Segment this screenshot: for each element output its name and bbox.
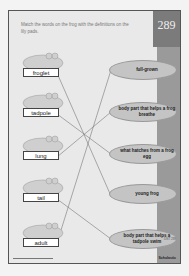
lily-pad-frog-breathe[interactable]: body part that helps a frog breathe (109, 102, 177, 122)
definition-text: what hatches from a frog egg (110, 148, 176, 160)
footer-brand: Scholastic (158, 256, 176, 260)
frog-tail: tail (19, 176, 67, 204)
word-label[interactable]: tail (23, 193, 59, 202)
footer-rule (13, 258, 53, 259)
page-code: DNT 289 (164, 237, 176, 241)
lily-pad-full-grown[interactable]: full-grown (109, 60, 177, 80)
definition-text: young frog (127, 191, 159, 197)
lily-pad-young-frog[interactable]: young frog (109, 184, 177, 204)
frog-froglet: froglet (19, 51, 67, 79)
word-label[interactable]: froglet (23, 68, 59, 77)
definition-text: full-grown (128, 67, 158, 73)
word-label[interactable]: lung (23, 151, 59, 160)
lily-pad-hatches[interactable]: what hatches from a frog egg (109, 144, 177, 164)
frog-lung: lung (19, 134, 67, 162)
worksheet-page: 289 Match the words on the frog with the… (8, 10, 181, 264)
word-label[interactable]: tadpole (23, 108, 59, 117)
word-label[interactable]: adult (23, 238, 59, 247)
definition-text: body part that helps a frog breathe (110, 106, 176, 118)
frog-tadpole: tadpole (19, 91, 67, 119)
frog-adult: adult (19, 221, 67, 249)
